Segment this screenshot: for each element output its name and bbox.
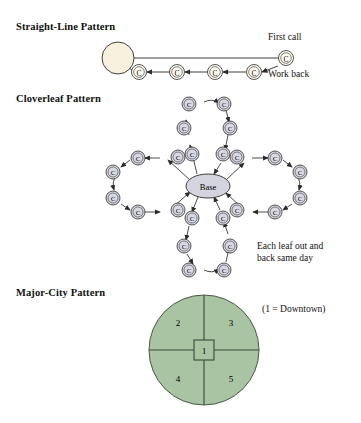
zone-label-downtown: 1: [202, 346, 206, 356]
cloverleaf-leaf-bottom: C C C C C C: [177, 197, 237, 277]
svg-text:C: C: [111, 169, 116, 177]
straight-line-node: C: [170, 65, 185, 80]
svg-text:C: C: [182, 243, 187, 251]
node-label: C: [283, 55, 288, 64]
svg-text:C: C: [273, 209, 278, 217]
svg-text:C: C: [228, 125, 233, 133]
node-label: C: [136, 69, 141, 78]
svg-text:C: C: [176, 207, 181, 215]
node-label: C: [174, 69, 179, 78]
major-city-diagram: 1 2 3 4 5: [149, 295, 259, 405]
svg-text:C: C: [298, 169, 303, 177]
svg-text:C: C: [221, 151, 226, 159]
svg-text:C: C: [136, 209, 141, 217]
straight-line-base-node: [102, 42, 134, 74]
svg-text:C: C: [273, 155, 278, 163]
svg-text:C: C: [111, 195, 116, 203]
svg-text:C: C: [187, 267, 192, 275]
cloverleaf-leaf-top: C C C C C C: [177, 97, 237, 174]
straight-line-first-call-node: C: [279, 51, 294, 66]
straight-line-diagram: C C C C C: [102, 42, 294, 80]
svg-text:C: C: [182, 125, 187, 133]
svg-text:C: C: [235, 154, 240, 162]
svg-text:C: C: [298, 195, 303, 203]
cloverleaf-diagram: C C C C C C: [106, 97, 307, 277]
svg-text:C: C: [222, 267, 227, 275]
zone-label-5: 5: [229, 374, 234, 384]
svg-text:C: C: [190, 215, 195, 223]
node-label: C: [212, 69, 217, 78]
zone-label-2: 2: [176, 318, 181, 328]
node-label: C: [251, 69, 256, 78]
svg-text:C: C: [228, 243, 233, 251]
svg-text:C: C: [221, 215, 226, 223]
zone-label-3: 3: [229, 318, 234, 328]
straight-line-node: C: [132, 65, 147, 80]
zone-label-4: 4: [176, 374, 181, 384]
straight-line-node: C: [208, 65, 223, 80]
straight-line-node: C: [247, 65, 262, 80]
cloverleaf-leaf-right: C C C C C C: [226, 150, 307, 219]
svg-text:C: C: [222, 101, 227, 109]
cloverleaf-leaf-left: C C C C C C: [106, 150, 190, 219]
svg-text:C: C: [136, 155, 141, 163]
svg-text:C: C: [187, 101, 192, 109]
cloverleaf-base-node: Base: [186, 174, 230, 198]
svg-text:C: C: [176, 154, 181, 162]
svg-text:C: C: [190, 151, 195, 159]
svg-text:C: C: [235, 207, 240, 215]
figure-canvas: C C C C C: [0, 0, 361, 423]
base-label: Base: [200, 182, 217, 192]
